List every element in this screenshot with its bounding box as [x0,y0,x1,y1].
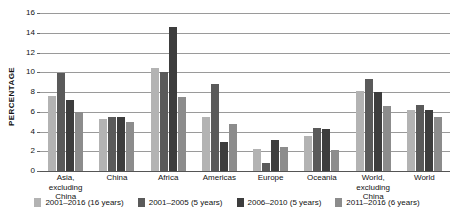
y-tick-label-10: 10 [26,67,35,76]
bar[interactable] [160,72,168,171]
bar[interactable] [434,117,442,171]
gridline-0: 0 [40,171,450,172]
bar[interactable] [151,68,159,171]
y-axis-title: PERCENTAGE [4,56,18,136]
bars-layer [40,13,450,171]
bar[interactable] [57,73,65,171]
bar[interactable] [99,119,107,171]
bar[interactable] [108,117,116,171]
legend-swatch-icon [138,198,145,207]
bar[interactable] [202,117,210,171]
legend-label: 2001–2005 (5 years) [149,198,223,207]
y-tick-label-2: 2 [31,146,35,155]
bar-group [245,13,296,171]
bar-group [143,13,194,171]
bar[interactable] [262,163,270,171]
y-tick-label-4: 4 [31,127,35,136]
bar[interactable] [407,110,415,171]
legend-item[interactable]: 2001–2016 (16 years) [34,198,123,207]
bar[interactable] [416,105,424,171]
legend-label: 2001–2016 (16 years) [45,198,123,207]
bar[interactable] [169,27,177,171]
bar-group [40,13,91,171]
bar[interactable] [280,147,288,171]
bar[interactable] [48,96,56,171]
legend-label: 2011–2016 (6 years) [346,198,419,207]
y-axis-title-label: PERCENTAGE [7,67,16,126]
bar[interactable] [75,112,83,171]
legend-item[interactable]: 2011–2016 (6 years) [335,198,419,207]
bar[interactable] [322,129,330,171]
bar-chart: PERCENTAGE 1614121086420 Asia, excluding… [0,0,454,224]
y-tick-label-8: 8 [31,87,35,96]
plot-area: 1614121086420 [40,13,450,171]
y-tick-label-0: 0 [31,166,35,175]
bar[interactable] [126,122,134,171]
bar[interactable] [425,110,433,171]
legend-swatch-icon [34,198,41,207]
legend-swatch-icon [237,198,244,207]
bar[interactable] [220,142,228,171]
bar[interactable] [253,149,261,171]
bar[interactable] [356,91,364,171]
y-tick-label-12: 12 [26,48,35,57]
bar[interactable] [383,106,391,171]
bar[interactable] [365,79,373,171]
bar[interactable] [117,117,125,171]
chart-legend: 2001–2016 (16 years)2001–2005 (5 years)2… [0,198,454,207]
y-tick-label-14: 14 [26,28,35,37]
y-tick-label-6: 6 [31,107,35,116]
bar[interactable] [374,92,382,171]
bar[interactable] [313,128,321,171]
bar[interactable] [304,136,312,171]
legend-swatch-icon [335,198,342,207]
bar-group [399,13,450,171]
bar[interactable] [211,84,219,171]
legend-label: 2006–2010 (5 years) [248,198,322,207]
bar[interactable] [271,140,279,171]
bar[interactable] [331,150,339,171]
y-tick-mark-0 [37,171,40,172]
y-tick-label-16: 16 [26,8,35,17]
bar-group [296,13,347,171]
bar[interactable] [229,124,237,171]
bar-group [91,13,142,171]
bar-group [194,13,245,171]
legend-item[interactable]: 2006–2010 (5 years) [237,198,322,207]
legend-item[interactable]: 2001–2005 (5 years) [138,198,223,207]
bar[interactable] [66,100,74,171]
bar[interactable] [178,97,186,171]
bar-group [348,13,399,171]
